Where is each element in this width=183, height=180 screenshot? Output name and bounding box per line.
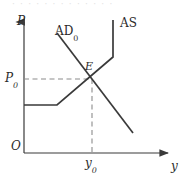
equilibrium-point-label: E — [85, 61, 93, 72]
y-axis-label: P — [17, 15, 25, 27]
output-tick-label: y0 — [85, 157, 97, 169]
output-tick-subscript: 0 — [92, 166, 97, 175]
ad0-label-base: AD — [55, 24, 73, 38]
origin-label: O — [11, 140, 21, 152]
ad0-curve — [57, 33, 133, 133]
ad0-curve-label: AD0 — [55, 25, 78, 37]
output-tick-base: y — [85, 156, 92, 170]
price-tick-label: P0 — [5, 72, 18, 84]
as-curve-label: AS — [120, 17, 137, 29]
x-axis-label: y — [171, 160, 178, 172]
price-tick-base: P — [5, 71, 13, 85]
diagram-canvas — [0, 0, 183, 180]
price-tick-subscript: 0 — [13, 81, 18, 90]
ad-as-diagram: · · · · · · · · · · · · · P y O P0 y0 — [0, 0, 183, 180]
ad0-label-subscript: 0 — [73, 34, 78, 43]
